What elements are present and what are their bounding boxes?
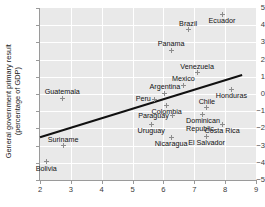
x-axis-tick — [102, 181, 103, 184]
data-point-marker — [195, 70, 200, 75]
data-point-label: Bolivia — [36, 165, 57, 173]
y-axis-tick — [36, 180, 39, 181]
data-point-marker — [204, 105, 209, 110]
data-point-label: Chile — [199, 98, 215, 106]
data-point-marker — [152, 97, 157, 102]
y-axis-tick-label: 4 — [231, 21, 265, 29]
y-axis-tick — [36, 163, 39, 164]
y-axis-tick — [36, 146, 39, 147]
x-axis-tick — [194, 181, 195, 184]
data-point-label: Guatemala — [45, 88, 80, 96]
y-axis-tick — [36, 77, 39, 78]
x-axis-tick — [225, 181, 226, 184]
y-axis-tick — [36, 94, 39, 95]
y-axis-tick — [36, 42, 39, 43]
data-point-label: Nicaragua — [155, 140, 188, 148]
y-axis-tick — [36, 111, 39, 112]
data-point-label: Paraguay — [138, 112, 169, 120]
data-point-marker — [170, 113, 175, 118]
y-axis-tick — [36, 128, 39, 129]
scatter-plot-figure: General government primary result (perce… — [0, 0, 265, 207]
x-axis-tick — [163, 181, 164, 184]
data-point-marker — [186, 27, 191, 32]
x-axis-tick-label: 6 — [155, 186, 171, 194]
y-axis-tick-label: 0 — [231, 90, 265, 98]
y-axis-tick-label: 5 — [231, 4, 265, 12]
data-point-marker — [169, 48, 174, 53]
x-axis-tick-label: 2 — [32, 186, 48, 194]
x-axis-tick-label: 7 — [186, 186, 202, 194]
y-axis-tick-label: −2 — [231, 124, 265, 132]
x-axis-tick-label: 9 — [248, 186, 264, 194]
x-axis-tick-label: 3 — [63, 186, 79, 194]
y-axis-tick-label: 2 — [231, 56, 265, 64]
y-axis-tick-label: −4 — [231, 159, 265, 167]
x-axis-tick — [71, 181, 72, 184]
x-axis-tick-label: 5 — [125, 186, 141, 194]
y-axis-tick-label: 1 — [231, 73, 265, 81]
y-axis-tick-label: −1 — [231, 107, 265, 115]
data-point-marker — [162, 91, 167, 96]
data-point-label: Suriname — [48, 136, 79, 144]
y-axis-tick — [36, 8, 39, 9]
y-axis-tick-label: −5 — [231, 176, 265, 184]
x-axis-tick-label: 4 — [94, 186, 110, 194]
data-points-layer: EcuadorBrazilPanamaVenezuelaMexicoArgent… — [0, 0, 216, 172]
data-point-label: Panama — [158, 40, 185, 48]
y-axis-tick-label: 3 — [231, 38, 265, 46]
data-point-label: Uruguay — [138, 127, 165, 135]
data-point-marker — [61, 143, 66, 148]
data-point-label: Argentina — [149, 83, 180, 91]
x-axis-tick — [133, 181, 134, 184]
x-axis-tick-label: 8 — [217, 186, 233, 194]
data-point-marker — [181, 83, 186, 88]
data-point-label: Peru — [136, 95, 151, 103]
data-point-label: Brazil — [179, 20, 197, 28]
y-axis-tick — [36, 25, 39, 26]
data-point-label: El Salvador — [188, 139, 225, 147]
data-point-label: Venezuela — [180, 63, 214, 71]
data-point-marker — [60, 96, 65, 101]
x-axis-tick — [40, 181, 41, 184]
y-axis-tick — [36, 60, 39, 61]
y-axis-tick-label: −3 — [231, 142, 265, 150]
